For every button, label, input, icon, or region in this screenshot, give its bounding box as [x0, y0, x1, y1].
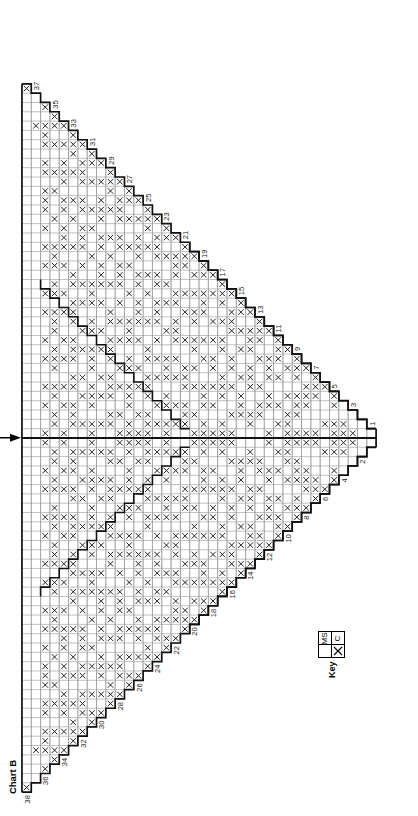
row-number: 6: [321, 497, 330, 501]
row-number: 12: [265, 553, 274, 561]
row-number: 20: [190, 627, 199, 635]
key-swatch-cross: [332, 645, 345, 658]
chart-canvas: 1234567891011121314151617181920212223242…: [6, 24, 410, 810]
row-number: 13: [256, 305, 265, 313]
row-number: 15: [237, 287, 246, 295]
row-number: 37: [32, 82, 41, 90]
cast-off-arrow-icon: [0, 433, 22, 442]
key-code-ms: MS: [319, 632, 332, 645]
page-title: Chart B: [9, 760, 17, 794]
row-number: 17: [218, 268, 227, 276]
key-table: MS C: [318, 631, 345, 658]
row-number: 36: [41, 776, 50, 784]
row-number: 24: [153, 665, 162, 673]
row-number: 3: [349, 403, 358, 407]
row-number: 33: [69, 119, 78, 127]
row-number: 29: [107, 156, 116, 164]
row-number: 1: [368, 421, 377, 425]
row-number: 19: [200, 249, 209, 257]
chart-inner: 1234567891011121314151617181920212223242…: [6, 24, 410, 810]
key-label: Key: [327, 661, 337, 678]
row-number: 21: [181, 231, 190, 239]
row-number: 23: [162, 212, 171, 220]
row-number: 18: [209, 609, 218, 617]
row-number: 8: [302, 516, 311, 520]
row-number: 11: [274, 325, 283, 333]
row-number: 4: [340, 478, 349, 482]
row-number: 25: [144, 194, 153, 202]
row-number: 28: [116, 702, 125, 710]
knitting-chart-grid: 1234567891011121314151617181920212223242…: [6, 24, 410, 810]
row-number: 16: [228, 590, 237, 598]
row-number: 22: [172, 646, 181, 654]
row-number: 32: [79, 739, 88, 747]
key-swatch-blank: [319, 645, 332, 658]
row-number: 27: [125, 175, 134, 183]
row-number: 34: [60, 758, 69, 766]
row-number: 35: [51, 100, 60, 108]
row-number: 9: [293, 347, 302, 351]
row-number: 10: [284, 534, 293, 542]
key-legend: Key MS C: [318, 631, 345, 678]
row-number: 2: [358, 460, 367, 464]
row-number: 26: [135, 683, 144, 691]
row-number: 30: [97, 721, 106, 729]
row-number: 5: [330, 384, 339, 388]
cross-icon: [332, 645, 344, 657]
row-number: 7: [312, 366, 321, 370]
row-number: 38: [23, 795, 32, 803]
row-number: 14: [246, 571, 255, 579]
row-number: 31: [88, 138, 97, 146]
key-code-c: C: [332, 632, 345, 645]
